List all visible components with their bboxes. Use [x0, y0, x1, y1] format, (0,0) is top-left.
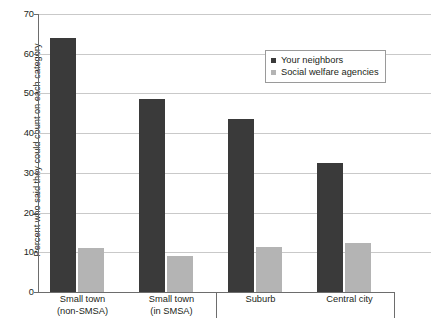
legend-swatch: [271, 70, 276, 75]
y-axis-tick-label: 30: [8, 168, 34, 178]
y-axis-tick-label: 10: [8, 247, 34, 257]
bar-0-3: [317, 163, 343, 292]
y-axis-tick-label: 20: [8, 208, 34, 218]
legend-item: Your neighbors: [271, 54, 379, 66]
y-axis-tick-label: 60: [8, 49, 34, 59]
legend-label: Your neighbors: [281, 55, 343, 65]
y-axis-tick-label: 0: [8, 287, 34, 297]
bar-1-2: [256, 247, 282, 292]
x-axis-label-line1: Small town: [60, 294, 105, 304]
bar-0-2: [228, 119, 254, 292]
x-axis-category-label: Small town(in SMSA): [127, 294, 216, 317]
x-axis-category-label: Central city: [305, 294, 394, 306]
bar-0-1: [139, 99, 165, 292]
x-axis-category-label: Small town(non-SMSA): [38, 294, 127, 317]
x-axis-category-label: Suburb: [216, 294, 305, 306]
legend-swatch: [271, 58, 276, 63]
bar-0-0: [50, 38, 76, 292]
bar-1-0: [78, 248, 104, 292]
x-axis-label-line1: Central city: [326, 294, 373, 304]
y-axis-tick-label: 70: [8, 9, 34, 19]
y-axis-tick-label: 50: [8, 88, 34, 98]
x-axis-label-line2: (non-SMSA): [38, 306, 127, 318]
x-axis-label-line1: Small town: [149, 294, 194, 304]
bar-1-1: [167, 256, 193, 292]
x-axis-label-line1: Suburb: [246, 294, 276, 304]
legend-label: Social welfare agencies: [281, 67, 379, 77]
x-axis-label-line2: (in SMSA): [127, 306, 216, 318]
bar-1-3: [345, 243, 371, 292]
y-axis-tick-label: 40: [8, 128, 34, 138]
y-axis-tick-labels: 010203040506070: [0, 0, 34, 322]
bar-chart-figure: Percent who said they could count on eac…: [0, 0, 431, 322]
x-axis-tick-labels: Small town(non-SMSA)Small town(in SMSA)S…: [38, 294, 431, 322]
chart-legend: Your neighborsSocial welfare agencies: [265, 50, 386, 83]
legend-item: Social welfare agencies: [271, 66, 379, 78]
